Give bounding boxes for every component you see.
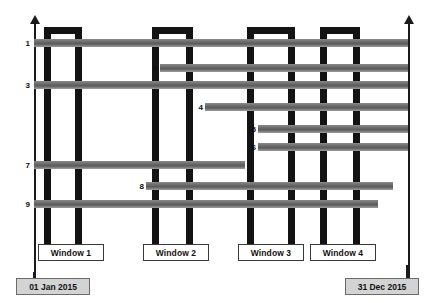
bar-3 (34, 81, 408, 89)
bar-label-1: 1 (18, 39, 30, 48)
diagram-canvas: 1 2 3 4 5 6 7 8 9 Window 1 Window 2 Wind… (0, 0, 430, 303)
bar-label-2: 2 (148, 64, 158, 73)
bar-label-6: 6 (246, 143, 256, 152)
bar-label-5: 5 (246, 125, 256, 134)
window-caption-1[interactable]: Window 1 (38, 244, 104, 261)
bar-7 (34, 161, 245, 169)
bar-8 (146, 182, 393, 190)
window-frame-1 (44, 27, 82, 252)
bar-label-4: 4 (193, 103, 203, 112)
bar-1 (34, 39, 408, 47)
window-frame-3 (247, 27, 295, 252)
start-date-box[interactable]: 01 Jan 2015 (16, 278, 90, 295)
end-date-box[interactable]: 31 Dec 2015 (345, 278, 419, 295)
window-frame-2 (152, 27, 193, 252)
bar-4 (205, 103, 408, 111)
window-frame-4 (320, 27, 360, 252)
window-caption-4[interactable]: Window 4 (310, 244, 376, 261)
bar-label-9: 9 (18, 200, 30, 209)
bar-9 (34, 200, 378, 208)
end-date-connector (406, 265, 409, 279)
bar-label-3: 3 (18, 81, 30, 90)
bar-2 (160, 64, 408, 72)
bar-label-7: 7 (18, 161, 30, 170)
bar-6 (258, 143, 408, 151)
bar-label-8: 8 (134, 182, 144, 191)
right-vertical-axis (408, 23, 410, 278)
bar-5 (258, 125, 408, 133)
window-caption-3[interactable]: Window 3 (238, 244, 304, 261)
left-vertical-axis (34, 23, 36, 281)
window-caption-2[interactable]: Window 2 (143, 244, 209, 261)
